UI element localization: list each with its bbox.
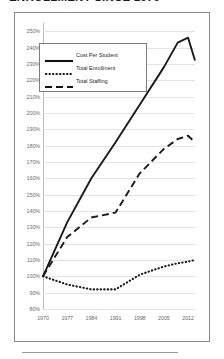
y-tick-label: 190% xyxy=(27,126,40,132)
y-tick-label: 100% xyxy=(27,273,40,279)
series-line-total-enrollment xyxy=(43,260,195,289)
y-tick-label: 230% xyxy=(27,61,40,67)
y-tick-label: 130% xyxy=(27,224,40,230)
y-tick-label: 150% xyxy=(27,192,40,198)
x-tick-label: 1998 xyxy=(134,315,146,321)
dotted-line-swatch xyxy=(45,64,73,72)
legend-item-cost-per-student[interactable]: Cost Per Student xyxy=(45,48,141,61)
y-tick-label: 120% xyxy=(27,241,40,247)
y-tick-label: 200% xyxy=(27,110,40,116)
y-tick-label: 80% xyxy=(30,306,41,312)
page-title: ENROLLMENT SINCE 1970 xyxy=(9,0,209,1)
gridline xyxy=(43,309,195,310)
legend-label: Total Enrollment xyxy=(76,65,115,71)
x-tick-label: 1991 xyxy=(110,315,122,321)
x-tick-label: 1977 xyxy=(61,315,73,321)
x-tick-label: 2012 xyxy=(182,315,194,321)
legend-label: Cost Per Student xyxy=(76,52,118,58)
y-tick-label: 180% xyxy=(27,143,40,149)
x-tick-label: 1970 xyxy=(37,315,49,321)
series-line-total-staffing xyxy=(43,136,195,277)
y-tick-label: 210% xyxy=(27,94,40,100)
solid-line-swatch xyxy=(45,51,73,59)
chart-page: ENROLLMENT SINCE 1970 250%240%230%220%21… xyxy=(0,0,224,359)
y-tick-label: 240% xyxy=(27,45,40,51)
dashed-line-swatch xyxy=(45,77,73,85)
y-tick-label: 170% xyxy=(27,159,40,165)
legend-item-total-staffing[interactable]: Total Staffing xyxy=(45,74,141,87)
y-tick-label: 140% xyxy=(27,208,40,214)
x-tick-label: 1984 xyxy=(86,315,98,321)
legend-item-total-enrollment[interactable]: Total Enrollment xyxy=(45,61,141,74)
y-tick-label: 250% xyxy=(27,28,40,34)
y-tick-label: 160% xyxy=(27,175,40,181)
y-tick-label: 110% xyxy=(27,257,40,263)
legend-label: Total Staffing xyxy=(76,78,108,84)
figure-frame: 250%240%230%220%210%200%190%180%170%160%… xyxy=(14,12,210,342)
x-tick-label: 2005 xyxy=(158,315,170,321)
footer-divider xyxy=(22,352,178,353)
chart-legend: Cost Per Student Total Enrollment Total … xyxy=(39,43,147,92)
y-tick-label: 90% xyxy=(30,290,41,296)
y-tick-label: 220% xyxy=(27,77,40,83)
